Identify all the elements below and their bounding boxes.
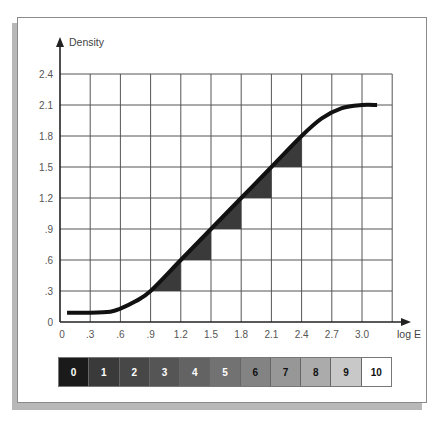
x-tick-label: 1.5 — [204, 329, 218, 340]
x-tick-label: 0 — [59, 329, 65, 340]
y-tick-label: 0 — [47, 317, 53, 328]
x-axis-arrow-icon — [401, 318, 411, 326]
y-axis-label: Density — [69, 36, 105, 48]
x-tick-label: 2.1 — [264, 329, 278, 340]
gray-scale-step: 2 — [120, 358, 150, 386]
x-tick-label: 3.0 — [355, 329, 369, 340]
gray-scale-step: 8 — [301, 358, 331, 386]
gray-scale-step: 5 — [210, 358, 240, 386]
y-tick-label: 1.2 — [39, 193, 53, 204]
x-tick-label: 1.2 — [174, 329, 188, 340]
gray-scale-step: 7 — [271, 358, 301, 386]
y-tick-label: 1.5 — [39, 162, 53, 173]
gray-scale-step: 4 — [180, 358, 210, 386]
y-tick-label: .9 — [45, 224, 54, 235]
gray-scale-step: 10 — [362, 358, 391, 386]
y-axis-arrow-icon — [56, 37, 64, 47]
gray-scale-step: 0 — [59, 358, 89, 386]
gray-scale-step: 1 — [89, 358, 119, 386]
gray-scale-strip: 012345678910 — [58, 357, 392, 387]
x-tick-label: 1.8 — [234, 329, 248, 340]
x-tick-label: 2.7 — [325, 329, 339, 340]
x-tick-label: .9 — [146, 329, 155, 340]
y-tick-label: 2.4 — [39, 69, 53, 80]
gray-scale-step: 3 — [150, 358, 180, 386]
y-tick-label: .6 — [45, 255, 54, 266]
gray-scale-step: 6 — [241, 358, 271, 386]
y-tick-label: 1.8 — [39, 131, 53, 142]
x-tick-label: 2.4 — [295, 329, 309, 340]
x-tick-label: .3 — [86, 329, 95, 340]
y-tick-label: 2.1 — [39, 100, 53, 111]
gray-scale-step: 9 — [331, 358, 361, 386]
x-tick-label: .6 — [116, 329, 125, 340]
y-tick-label: .3 — [45, 286, 54, 297]
x-axis-label: log E — [397, 328, 421, 340]
